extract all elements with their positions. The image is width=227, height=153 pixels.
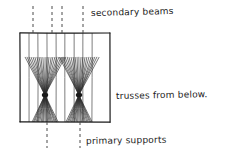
grid-lines-bottom-group (47, 122, 80, 148)
framing-plan-sketch: secondary beamstrusses from below.primar… (0, 0, 227, 153)
annotation-trusses-from-below: trusses from below. (116, 89, 208, 101)
annotation-secondary-beams: secondary beams (91, 6, 174, 18)
grid-lines-top-group (33, 6, 83, 33)
annotation-primary-supports: primary supports (86, 135, 167, 146)
truss-fan-right-node (76, 93, 82, 98)
truss-fan-left-upper-ray-20 (45, 57, 63, 95)
truss-fan-left-node (42, 93, 48, 98)
truss-fan-right-upper-ray-3 (63, 57, 79, 95)
truss-fan-left (25, 57, 65, 122)
diagram-canvas: secondary beamstrusses from below.primar… (0, 0, 227, 153)
annotation-group: secondary beamstrusses from below.primar… (86, 6, 208, 146)
truss-group (25, 57, 99, 122)
